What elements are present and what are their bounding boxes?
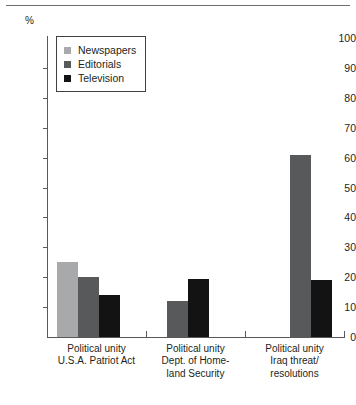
y-axis-tick-label: 100 — [322, 33, 356, 44]
y-axis-unit-label: % — [25, 16, 34, 26]
y-axis-tick-mark — [43, 158, 47, 159]
x-axis-line — [47, 337, 344, 338]
top-divider — [6, 5, 350, 6]
y-axis-tick-label: 90 — [322, 63, 356, 74]
legend-item-editorials[interactable]: Editorials — [64, 57, 139, 71]
legend-item-label: Editorials — [78, 59, 121, 70]
bar-television-group2 — [188, 279, 209, 337]
legend-swatch-icon — [64, 75, 71, 82]
x-axis-category-label: Political unityIraq threat/resolutions — [245, 343, 344, 380]
y-axis-tick-label: 30 — [322, 242, 356, 253]
y-axis-tick-mark — [43, 98, 47, 99]
y-axis-tick-label: 60 — [322, 153, 356, 164]
y-axis-tick-mark — [43, 307, 47, 308]
y-axis-tick-mark — [43, 128, 47, 129]
category-label-line: U.S.A. Patriot Act — [47, 355, 146, 367]
y-axis-line — [47, 36, 48, 338]
bar-newspapers-group1 — [57, 262, 78, 337]
legend-item-newspapers[interactable]: Newspapers — [64, 43, 139, 57]
legend-item-label: Television — [78, 73, 124, 84]
y-axis-tick-mark — [43, 247, 47, 248]
y-axis-tick-label: 70 — [322, 123, 356, 134]
category-label-line: Iraq threat/ — [245, 355, 344, 367]
category-label-line: resolutions — [245, 368, 344, 380]
legend-swatch-icon — [64, 47, 71, 54]
category-label-line: land Security — [146, 368, 245, 380]
x-axis-group-separator — [245, 331, 246, 338]
x-axis-group-separator — [146, 331, 147, 338]
y-axis-tick-mark — [43, 188, 47, 189]
bar-editorials-group1 — [78, 277, 99, 337]
bar-editorials-group2 — [167, 301, 188, 337]
bar-editorials-group3 — [290, 155, 311, 337]
x-axis-category-label: Political unityDept. of Home-land Securi… — [146, 343, 245, 380]
y-axis-tick-label: 40 — [322, 212, 356, 223]
category-label-line: Dept. of Home- — [146, 355, 245, 367]
category-label-line: Political unity — [47, 343, 146, 355]
y-axis-tick-mark — [43, 68, 47, 69]
legend-swatch-icon — [64, 61, 71, 68]
x-axis-end-tick — [344, 331, 345, 338]
y-axis-tick-label: 80 — [322, 93, 356, 104]
bar-television-group3 — [311, 280, 332, 337]
category-label-line: Political unity — [146, 343, 245, 355]
y-axis-tick-mark — [43, 277, 47, 278]
bar-chart-figure: % 1009080706050403020100 Political unity… — [0, 0, 356, 405]
x-axis-category-label: Political unityU.S.A. Patriot Act — [47, 343, 146, 368]
bar-television-group1 — [99, 295, 120, 337]
y-axis-tick-label: 50 — [322, 183, 356, 194]
legend-item-label: Newspapers — [78, 45, 136, 56]
legend-item-television[interactable]: Television — [64, 71, 139, 85]
chart-legend: NewspapersEditorialsTelevision — [56, 36, 146, 92]
category-label-line: Political unity — [245, 343, 344, 355]
y-axis-tick-mark — [43, 217, 47, 218]
